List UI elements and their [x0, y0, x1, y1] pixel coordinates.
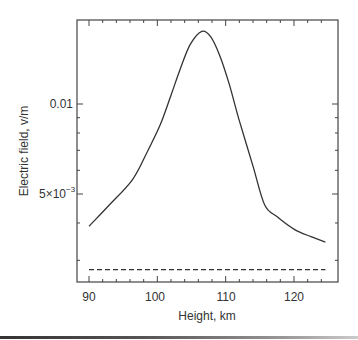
- x-tick-110: 110: [216, 290, 235, 304]
- y-tick-0.01: 0.01: [50, 97, 74, 111]
- y-tick-5e-3-exponent: −3: [66, 185, 76, 194]
- x-tick-120: 120: [284, 290, 304, 304]
- y-tick-5e-3-mantissa: 5×10: [39, 187, 66, 201]
- y-tick-labels: 0.01 5×10 −3: [39, 97, 76, 201]
- axis-ticks: [77, 20, 338, 282]
- x-tick-100: 100: [145, 290, 165, 304]
- x-axis-label: Height, km: [178, 309, 235, 323]
- x-tick-labels: 90 100 110 120: [82, 290, 304, 304]
- x-tick-90: 90: [82, 290, 96, 304]
- series-solid-line: [89, 31, 325, 242]
- bottom-divider: [0, 336, 358, 339]
- y-axis-label: Electric field, v/m: [17, 106, 31, 197]
- chart: 90 100 110 120 0.01 5×10 −3 Height, km E…: [0, 0, 358, 340]
- plot-frame: [77, 20, 338, 282]
- series-layer: [89, 31, 325, 270]
